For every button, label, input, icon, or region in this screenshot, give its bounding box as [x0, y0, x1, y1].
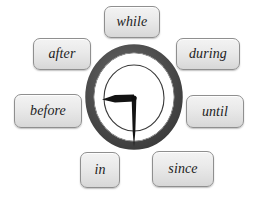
- word-chip-while[interactable]: while: [104, 6, 160, 38]
- word-chip-since[interactable]: since: [152, 151, 214, 187]
- word-chip-after[interactable]: after: [33, 38, 91, 70]
- analog-clock: [85, 44, 183, 150]
- word-chip-until[interactable]: until: [186, 95, 244, 128]
- word-chip-label: since: [168, 162, 197, 176]
- word-chip-label: before: [30, 104, 66, 118]
- word-chip-label: until: [202, 104, 228, 118]
- word-chip-label: during: [189, 47, 227, 61]
- clock-center-pivot: [131, 95, 136, 100]
- word-chip-label: in: [94, 163, 105, 177]
- word-chip-before[interactable]: before: [14, 94, 82, 128]
- word-chip-label: after: [49, 47, 76, 61]
- word-chip-label: while: [117, 15, 148, 29]
- word-chip-during[interactable]: during: [176, 38, 240, 70]
- word-chip-in[interactable]: in: [80, 152, 120, 188]
- illustration-canvas: while after during before until in since: [0, 0, 262, 198]
